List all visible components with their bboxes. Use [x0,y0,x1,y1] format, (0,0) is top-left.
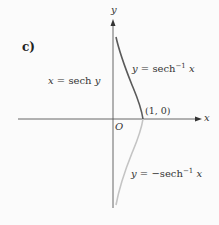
point-label: (1, 0) [145,106,171,116]
equation-upper: y = sech−1 x [132,64,195,74]
eq-left-fn: sech [68,75,94,86]
eq-left-var: y [95,75,101,86]
eq-upper-fn: sech [152,63,175,74]
eq-upper-var: x [186,63,195,74]
eq-upper-equals: = [138,63,153,74]
origin-label: O [115,122,123,132]
eq-lower-sup: −1 [183,167,193,175]
x-axis-label: x [204,113,210,123]
eq-left-equals: = [54,75,69,86]
eq-upper-sup: −1 [176,62,186,70]
equation-left: x = sech y [48,76,100,86]
x-axis-arrow-icon [195,117,202,122]
graph-svg [0,0,219,225]
part-label: c) [22,41,35,53]
eq-lower-equals: = − [137,168,160,179]
upper-curve [116,37,143,119]
eq-lower-fn: sech [160,168,183,179]
equation-lower: y = −sech−1 x [131,169,202,179]
y-axis-arrow-icon [111,19,116,26]
figure-canvas: c) y x O (1, 0) x = sech y y = sech−1 x … [0,0,219,225]
eq-lower-var: x [193,168,202,179]
y-axis-label: y [111,5,117,15]
